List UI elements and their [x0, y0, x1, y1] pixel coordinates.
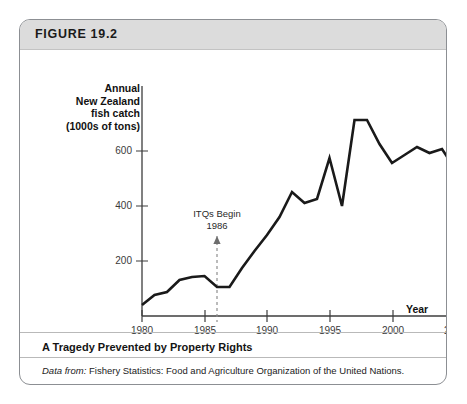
- figure-source: Data from: Fishery Statistics: Food and …: [42, 365, 404, 376]
- x-tick-label-2000: 2000: [373, 325, 413, 336]
- figure-caption: A Tragedy Prevented by Property Rights: [42, 341, 252, 353]
- figure-frame: FIGURE 19.2 Annual New Zealand fish catc…: [19, 19, 447, 385]
- figure-source-text: Fishery Statistics: Food and Agriculture…: [89, 365, 404, 376]
- itq-annotation: ITQs Begin 1986: [170, 208, 264, 231]
- x-tick-label-1985: 1985: [185, 325, 225, 336]
- x-tick-label-1995: 1995: [310, 325, 350, 336]
- itq-annotation-line-1: ITQs Begin: [170, 208, 264, 220]
- caption-divider-top: [20, 332, 446, 333]
- figure-page: FIGURE 19.2 Annual New Zealand fish catc…: [0, 0, 467, 404]
- x-tick-label-2005: 2005: [435, 325, 447, 336]
- y-tick-label-200: 200: [98, 255, 132, 266]
- chart-svg: [20, 50, 447, 332]
- y-tick-label-600: 600: [98, 145, 132, 156]
- figure-number-label: FIGURE 19.2: [35, 27, 118, 41]
- x-tick-label-1980: 1980: [122, 325, 162, 336]
- x-tick-label-1990: 1990: [247, 325, 287, 336]
- caption-divider-bottom: [20, 357, 446, 358]
- chart-plot-area: Annual New Zealand fish catch (1000s of …: [20, 50, 447, 332]
- itq-annotation-line-2: 1986: [170, 220, 264, 232]
- y-tick-label-400: 400: [98, 200, 132, 211]
- x-axis-title: Year: [406, 303, 428, 315]
- figure-source-prefix: Data from:: [42, 365, 86, 376]
- itq-arrow-icon: [213, 236, 220, 244]
- figure-header-band: FIGURE 19.2: [20, 20, 446, 50]
